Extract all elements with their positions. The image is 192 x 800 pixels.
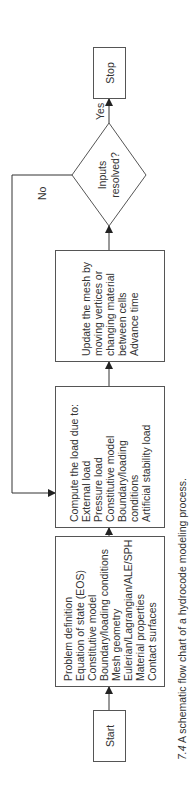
caption-number: 7.4 xyxy=(176,745,188,760)
update-mesh-node: Update the mesh by moving vertices or ch… xyxy=(55,250,165,362)
update-line: moving vertices or xyxy=(92,256,104,356)
problem-line: Equation of state (EOS) xyxy=(74,542,86,681)
compute-line: conditions xyxy=(128,392,140,522)
compute-line: External load xyxy=(80,392,92,522)
compute-load-node: Compute the load due to: External load P… xyxy=(55,386,165,528)
problem-line: Boundary/loading conditions xyxy=(98,542,110,681)
yes-label: Yes xyxy=(94,103,106,120)
problem-line: Mesh geometry xyxy=(110,542,122,681)
figure-caption: 7.4 A schematic flow chart of a hydrocod… xyxy=(176,478,188,760)
decision-line: resolved? xyxy=(109,150,122,200)
compute-line: Boundary/loading xyxy=(116,392,128,522)
problem-line: Material properties xyxy=(134,542,146,681)
problem-line: Eulerian/Lagrangian/ALE/SPH xyxy=(122,542,134,681)
update-line: between cells xyxy=(116,256,128,356)
compute-line: Pressure load xyxy=(92,392,104,522)
update-line: Advance time xyxy=(128,256,140,356)
start-label: Start xyxy=(104,725,116,747)
flowchart: Start Problem definition Equation of sta… xyxy=(0,0,192,800)
problem-line: Contact surfaces xyxy=(146,542,158,681)
problem-definition-node: Problem definition Equation of state (EO… xyxy=(55,536,165,687)
stop-label: Stop xyxy=(104,62,116,84)
decision-line: Inputs xyxy=(96,150,109,200)
compute-line: Artificial stability load xyxy=(140,392,152,522)
update-line: Update the mesh by xyxy=(80,256,92,356)
start-node: Start xyxy=(93,710,126,762)
stop-node: Stop xyxy=(93,47,126,99)
update-line: changing material xyxy=(104,256,116,356)
caption-text: A schematic flow chart of a hydrocode mo… xyxy=(176,478,188,743)
problem-line: Constitutive model xyxy=(86,542,98,681)
compute-line: Compute the load due to: xyxy=(68,392,80,522)
compute-line: Constitutive model xyxy=(104,392,116,522)
problem-line: Problem definition xyxy=(62,542,74,681)
decision-text: Inputs resolved? xyxy=(96,150,122,200)
no-label: No xyxy=(36,187,48,200)
